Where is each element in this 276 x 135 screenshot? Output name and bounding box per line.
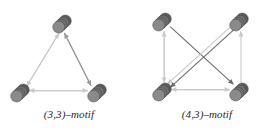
motif-panel-left: (3,3)–motif	[0, 0, 138, 135]
graph-edge	[162, 31, 167, 83]
motif-graph-left	[0, 0, 138, 112]
graph-node	[230, 13, 249, 31]
edge-arrowhead	[239, 31, 244, 36]
motif-panel-right: (4,3)–motif	[138, 0, 276, 135]
graph-edge	[170, 30, 233, 88]
graph-edge	[29, 88, 88, 93]
figure-root: (3,3)–motif (4,3)–motif	[0, 0, 276, 135]
motif-caption-right: (4,3)–motif	[138, 108, 276, 120]
edge-arrowhead	[162, 31, 167, 36]
graph-edge	[171, 87, 230, 92]
graph-edge	[27, 33, 59, 86]
graph-node	[53, 15, 72, 33]
graph-node	[88, 84, 107, 102]
graph-node	[153, 13, 172, 31]
graph-node	[11, 84, 30, 102]
edge-arrowhead	[171, 87, 176, 92]
graph-edge	[64, 33, 91, 86]
graph-node	[153, 83, 172, 101]
motif-graph-right	[138, 0, 276, 112]
graph-node	[230, 83, 249, 101]
motif-caption-left: (3,3)–motif	[0, 108, 138, 120]
graph-edge	[167, 27, 230, 85]
graph-edge	[239, 31, 244, 83]
edge-arrowhead	[29, 88, 34, 93]
graph-edge	[170, 27, 233, 85]
